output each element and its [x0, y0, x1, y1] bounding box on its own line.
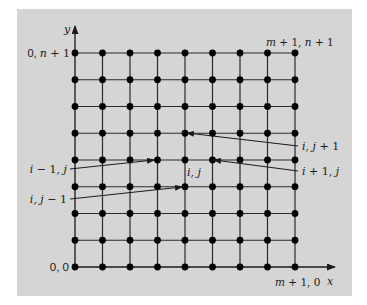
grid-node	[264, 130, 271, 137]
grid-node	[182, 103, 189, 110]
grid-node	[154, 157, 161, 164]
grid-node	[154, 50, 161, 57]
grid-node	[209, 50, 216, 57]
grid-node	[182, 210, 189, 217]
grid-node	[292, 183, 299, 190]
grid-node	[237, 50, 244, 57]
grid-node	[127, 183, 134, 190]
grid-node	[264, 76, 271, 83]
grid-node	[99, 210, 106, 217]
y-axis-label: y	[63, 23, 71, 36]
grid-node	[237, 183, 244, 190]
grid-node	[237, 103, 244, 110]
grid-node	[237, 237, 244, 244]
grid-node	[182, 264, 189, 271]
label-bottom-left-corner: 0, 0	[50, 261, 69, 273]
grid-node	[264, 264, 271, 271]
grid-node	[99, 130, 106, 137]
grid-node	[154, 210, 161, 217]
label-node-i-jplus1: i, j + 1	[302, 140, 339, 153]
grid-node	[127, 264, 134, 271]
grid-node	[209, 210, 216, 217]
grid-node	[99, 103, 106, 110]
grid-node	[292, 210, 299, 217]
grid-node	[72, 183, 79, 190]
label-node-i-jminus1: i, j − 1	[30, 193, 67, 206]
grid-node	[209, 237, 216, 244]
grid-node	[264, 103, 271, 110]
grid-node	[182, 76, 189, 83]
grid-node	[209, 183, 216, 190]
grid-node	[264, 50, 271, 57]
grid-node	[154, 103, 161, 110]
grid-node	[292, 130, 299, 137]
grid-node	[182, 237, 189, 244]
grid-node	[182, 183, 189, 190]
grid-node	[237, 264, 244, 271]
grid-node	[99, 237, 106, 244]
grid-node	[292, 76, 299, 83]
grid-node	[99, 50, 106, 57]
grid-node	[127, 210, 134, 217]
grid-node	[182, 157, 189, 164]
x-axis-label: x	[327, 275, 334, 288]
grid-node	[72, 210, 79, 217]
grid-node	[72, 76, 79, 83]
grid-node	[237, 210, 244, 217]
grid-node	[264, 237, 271, 244]
grid-node	[99, 183, 106, 190]
grid-node	[127, 76, 134, 83]
grid-node	[292, 157, 299, 164]
grid-node	[237, 76, 244, 83]
grid-node	[209, 264, 216, 271]
grid-node	[154, 76, 161, 83]
grid-node	[292, 237, 299, 244]
grid-node	[72, 130, 79, 137]
label-node-i-j: i, j	[187, 166, 202, 179]
grid-node	[154, 237, 161, 244]
grid-node	[209, 76, 216, 83]
label-node-iplus1-j: i + 1, j	[302, 165, 340, 178]
grid-node	[292, 103, 299, 110]
grid-node	[72, 50, 79, 57]
grid-diagram-svg: y x 0, n + 1 m + 1, n + 1 0, 0 m + 1, 0 …	[0, 0, 367, 305]
grid-node	[154, 130, 161, 137]
grid-node	[209, 103, 216, 110]
grid-node	[292, 50, 299, 57]
grid-node	[237, 130, 244, 137]
label-top-right-corner: m + 1, n + 1	[266, 36, 334, 48]
label-bottom-right-corner: m + 1, 0	[275, 276, 320, 288]
grid-node	[127, 130, 134, 137]
label-node-iminus1-j: i − 1, j	[30, 163, 68, 176]
grid-node	[72, 237, 79, 244]
grid-node	[264, 157, 271, 164]
grid-node	[99, 264, 106, 271]
grid-node	[127, 103, 134, 110]
grid-node	[99, 76, 106, 83]
grid-node	[72, 103, 79, 110]
grid-node	[154, 264, 161, 271]
grid-node	[72, 157, 79, 164]
grid-node	[237, 157, 244, 164]
grid-node	[99, 157, 106, 164]
grid-node	[127, 50, 134, 57]
grid-node	[264, 183, 271, 190]
grid-node	[127, 237, 134, 244]
grid-node	[264, 210, 271, 217]
grid-node	[292, 264, 299, 271]
grid-node	[72, 264, 79, 271]
grid-node	[182, 50, 189, 57]
finite-difference-grid-figure: y x 0, n + 1 m + 1, n + 1 0, 0 m + 1, 0 …	[0, 0, 367, 305]
label-top-left-corner: 0, n + 1	[27, 47, 70, 60]
